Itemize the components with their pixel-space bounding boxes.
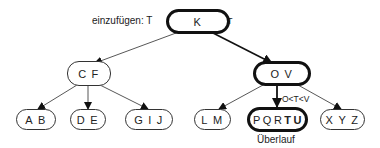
- key: U: [293, 114, 303, 126]
- key: O: [269, 68, 283, 80]
- edge-root-right: [213, 33, 272, 63]
- edge-left-gij: [100, 85, 148, 109]
- key: B: [36, 114, 49, 126]
- node-leaf-lm: L M: [194, 109, 231, 130]
- inserted-key: T: [283, 114, 292, 126]
- key: E: [88, 114, 101, 126]
- child-comparison-label: O<T<V: [282, 94, 309, 104]
- node-leaf-gij: G I J: [125, 109, 173, 130]
- node-leaf-xyz: X Y Z: [320, 109, 365, 130]
- key: A: [23, 114, 36, 126]
- b-tree-diagram: einzufügen: T K < T O<T<V Überlauf K C F…: [0, 0, 380, 148]
- node-leaf-overflow: P Q R T U: [247, 107, 308, 132]
- key: J: [155, 114, 166, 126]
- key: X: [324, 114, 337, 126]
- edge-left-ab: [38, 85, 77, 109]
- key: C: [76, 68, 89, 80]
- key: F: [90, 68, 102, 80]
- node-left: C F: [67, 61, 111, 86]
- key: V: [283, 68, 296, 80]
- insert-label: einzufügen: T: [92, 15, 152, 26]
- key: I: [146, 114, 155, 126]
- key: D: [75, 114, 88, 126]
- node-root: K: [166, 9, 230, 34]
- key: Z: [349, 114, 361, 126]
- key: M: [211, 114, 226, 126]
- key: L: [199, 114, 211, 126]
- key: R: [273, 114, 283, 126]
- edge-right-lm: [219, 85, 263, 109]
- key: G: [132, 114, 146, 126]
- key: Y: [336, 114, 349, 126]
- node-leaf-de: D E: [70, 109, 106, 130]
- overflow-label: Überlauf: [257, 134, 295, 145]
- node-right: O V: [253, 61, 311, 86]
- node-leaf-ab: A B: [16, 109, 56, 130]
- key: K: [192, 16, 205, 28]
- edge-root-left: [95, 33, 176, 63]
- key: Q: [262, 114, 273, 126]
- key: P: [252, 114, 262, 126]
